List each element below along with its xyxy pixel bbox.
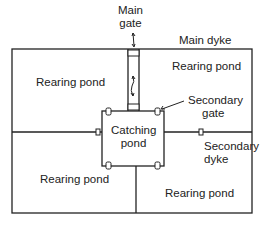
- rearing-pond-bottom-right-label: Rearing pond: [165, 187, 234, 200]
- main-gate-icon: [128, 50, 139, 56]
- catching-pond-label: Catching pond: [111, 124, 156, 150]
- main-gate-label-line1: Main: [118, 4, 143, 17]
- channel-gate-icon: [128, 104, 139, 110]
- secondary-dyke-label-line1: Secondary: [204, 140, 259, 153]
- rearing-pond-bottom-left-label: Rearing pond: [40, 173, 109, 186]
- secondary-gate-label-line1: Secondary: [188, 94, 243, 107]
- rearing-pond-top-right-label: Rearing pond: [172, 60, 241, 73]
- secondary-dyke-label-line2: dyke: [204, 153, 259, 166]
- secondary-dyke-label: Secondary dyke: [204, 140, 259, 166]
- main-gate-label-line2: gate: [118, 17, 143, 30]
- secondary-gate-icon: [155, 108, 160, 115]
- secondary-gate-label: Secondary gate: [188, 94, 243, 120]
- gate-icon: [155, 162, 160, 169]
- valve-icon: [96, 129, 100, 135]
- main-gate-label: Main gate: [118, 4, 143, 30]
- gate-icon: [106, 162, 111, 169]
- secondary-gate-pointer-icon: [162, 101, 184, 109]
- gate-icon: [106, 108, 111, 115]
- valve-icon: [199, 129, 203, 135]
- catching-pond-label-line1: Catching: [111, 124, 156, 137]
- rearing-pond-top-left-label: Rearing pond: [36, 76, 105, 89]
- catching-pond-label-line2: pond: [111, 137, 156, 150]
- secondary-gate-label-line2: gate: [188, 107, 243, 120]
- main-dyke-label: Main dyke: [179, 34, 231, 47]
